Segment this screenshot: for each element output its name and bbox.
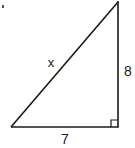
- hypotenuse-label: x: [48, 55, 55, 70]
- stray-mark: [2, 5, 4, 8]
- vertical-leg-label: 8: [124, 63, 132, 79]
- right-angle-marker-icon: [111, 120, 118, 127]
- hypotenuse-line: [11, 2, 118, 127]
- horizontal-leg-label: 7: [61, 131, 69, 147]
- triangle-figure: x 8 7: [0, 0, 135, 148]
- right-triangle-diagram: x 8 7: [0, 0, 135, 148]
